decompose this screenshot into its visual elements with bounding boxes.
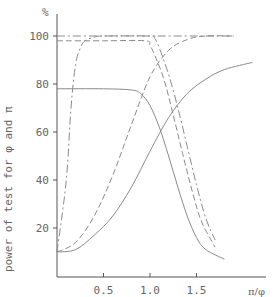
x-tick-label: 0.5 xyxy=(94,284,114,297)
y-axis-label: power of test for φ and π xyxy=(2,106,15,272)
x-tick-label: 1.0 xyxy=(140,284,160,297)
y-tick-label: 60 xyxy=(36,126,49,139)
y-tick-label: 80 xyxy=(36,78,49,91)
series-line-2 xyxy=(57,62,252,252)
power-chart: 20406080100 0.51.01.5 % π/φ power of tes… xyxy=(0,0,276,297)
series-line-5 xyxy=(57,89,224,259)
y-ticks: 20406080100 xyxy=(29,30,57,235)
series-line-3 xyxy=(57,36,215,240)
y-unit-label: % xyxy=(42,6,49,19)
y-tick-label: 100 xyxy=(29,30,49,43)
x-axis-label: π/φ xyxy=(248,286,265,297)
series-line-1 xyxy=(57,36,234,252)
y-tick-label: 40 xyxy=(36,174,49,187)
x-tick-label: 1.5 xyxy=(187,284,207,297)
curves xyxy=(57,36,252,259)
series-line-0 xyxy=(57,36,234,252)
y-tick-label: 20 xyxy=(36,222,49,235)
series-line-4 xyxy=(57,40,215,247)
